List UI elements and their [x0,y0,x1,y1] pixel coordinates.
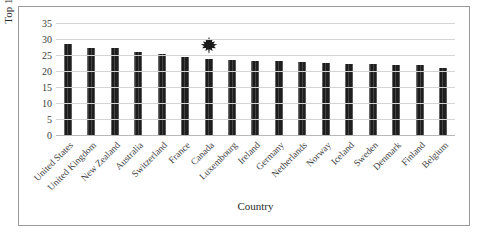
y-axis-tick-label: 10 [42,98,52,109]
x-label-slot: Netherlands [291,138,314,200]
income-share-bar-chart: Top 10% Income Share 05101520253035 Unit… [0,0,482,237]
bar [322,63,329,136]
y-axis-title-container: Top 10% Income Share [22,16,38,140]
x-axis-tick-labels: United StatesUnited KingdomNew ZealandAu… [56,138,455,200]
y-axis-tick-label: 0 [47,130,52,141]
y-axis-tick-label: 15 [42,82,52,93]
bar [88,48,95,136]
bar [158,54,165,136]
y-axis-tick-label: 30 [42,34,52,45]
y-axis-tick-label: 20 [42,66,52,77]
bar [299,62,306,136]
gridline: 15 [56,87,455,88]
x-label-slot: Luxembourg [220,138,243,200]
bar [64,44,71,136]
x-axis-title: Country [56,200,455,212]
gridline: 30 [56,39,455,40]
bar [252,61,259,136]
bar [111,48,118,136]
axis-baseline: 0 [56,135,455,136]
bar [346,64,353,136]
bar [416,65,423,136]
plot-area: 05101520253035 [56,24,455,136]
y-axis-tick-label: 25 [42,50,52,61]
x-label-slot: France [173,138,196,200]
gridline: 25 [56,55,455,56]
gridline: 5 [56,119,455,120]
bar [135,52,142,136]
x-label-slot: Switzerland [150,138,173,200]
gridline: 35 [56,23,455,24]
y-axis-tick-label: 35 [42,18,52,29]
x-label-slot: Belgium [432,138,455,200]
bar [182,57,189,136]
x-label-slot: Iceland [338,138,361,200]
bar [393,65,400,136]
x-label-slot: Norway [314,138,337,200]
y-axis-title: Top 10% Income Share [0,0,16,32]
x-label-slot: Denmark [385,138,408,200]
bar [275,61,282,136]
y-axis-tick-label: 5 [47,114,52,125]
gridline: 20 [56,71,455,72]
gridline: 10 [56,103,455,104]
bar [369,64,376,136]
